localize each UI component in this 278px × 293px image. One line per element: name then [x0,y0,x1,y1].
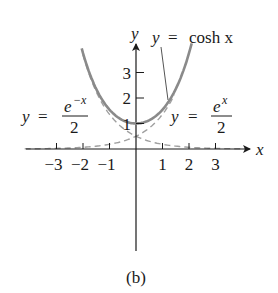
cosh-label: y = cosh x [150,28,233,47]
ex-den: 2 [217,118,226,137]
y-tick-label: 2 [123,89,132,108]
cosh-leader-line [161,47,168,100]
cosh-label-rhs: cosh x [189,28,233,47]
figure-caption: (b) [126,268,146,287]
x-tick-label: 2 [185,155,194,174]
ex-num: e [213,97,221,116]
y-tick-label: 1 [123,115,132,134]
emx-sup: −x [73,93,87,107]
ex-eq: = [188,107,198,126]
exp-x-label: y = e x 2 [169,93,232,137]
x-tick-label: 1 [158,155,167,174]
cosh-label-lhs: y [150,28,160,47]
x-tick-label: −2 [71,155,89,174]
emx-den: 2 [70,118,79,137]
ex-lhs: y [169,107,179,126]
y-tick-label: 3 [123,64,132,83]
ex-sup: x [221,93,228,107]
emx-eq: = [38,107,48,126]
y-axis-label: y [129,24,139,43]
x-axis-ticks: −3−2−1123 [44,143,219,174]
x-axis-label: x [255,140,264,159]
exp-neg-x-label: y = e −x 2 [20,93,88,137]
x-tick-label: −1 [97,155,115,174]
x-tick-label: −3 [44,155,62,174]
cosh-label-eq: = [168,28,178,47]
emx-num: e [64,97,72,116]
x-tick-label: 3 [211,155,220,174]
cosh-graph-figure: −3−2−1123 123 x y y = cosh x y = e −x 2 … [0,0,278,293]
emx-lhs: y [20,107,30,126]
